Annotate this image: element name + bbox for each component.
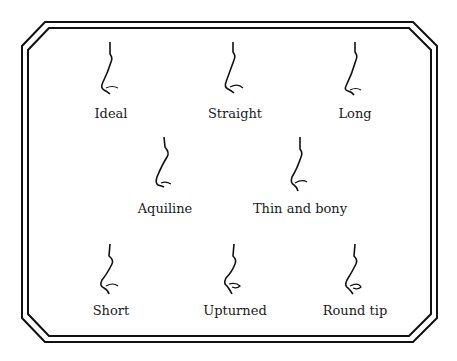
nose-profile-upturned-icon [220,242,250,297]
nose-upturned: Upturned [175,242,295,318]
nose-short: Short [51,242,171,318]
nose-thin-and-bony: Thin and bony [240,135,360,216]
nose-profile-short-icon [96,242,126,297]
label-round-tip: Round tip [295,303,415,318]
nose-round-tip: Round tip [295,242,415,318]
label-ideal: Ideal [51,106,171,121]
label-aquiline: Aquiline [105,201,225,216]
label-straight: Straight [175,106,295,121]
nose-profile-ideal-icon [96,40,126,100]
nose-profile-straight-icon [220,40,250,100]
nose-long: Long [295,40,415,121]
label-upturned: Upturned [175,303,295,318]
label-long: Long [295,106,415,121]
nose-aquiline: Aquiline [105,135,225,216]
nose-profile-round-tip-icon [340,242,370,297]
label-thin-and-bony: Thin and bony [240,201,360,216]
nose-ideal: Ideal [51,40,171,121]
nose-straight: Straight [175,40,295,121]
nose-profile-long-icon [340,40,370,100]
label-short: Short [51,303,171,318]
nose-profile-thin-and-bony-icon [285,135,315,195]
nose-profile-aquiline-icon [150,135,180,195]
